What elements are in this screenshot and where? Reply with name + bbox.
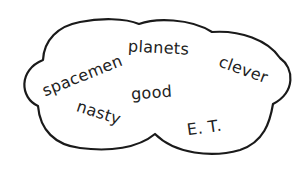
word-et: E. T. — [186, 118, 223, 139]
word-good: good — [131, 84, 173, 103]
word-cloud-illustration: spacemen planets clever good nasty E. T. — [0, 0, 303, 170]
word-planets: planets — [128, 38, 190, 57]
